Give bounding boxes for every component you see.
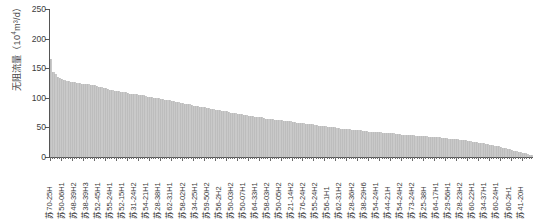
x-axis-tick-mark [265, 157, 266, 159]
x-axis-category-label: 苏50-05H2 [276, 183, 284, 219]
x-axis-category-label: 苏28-23H2 [457, 183, 465, 219]
y-axis-tick-label: 50 [36, 122, 46, 132]
x-axis-tick-mark [155, 157, 156, 159]
x-axis-category-label: 苏60-22H1 [469, 183, 477, 219]
x-axis-category-label: 苏50-06H1 [58, 183, 66, 219]
x-axis-tick-mark [276, 157, 277, 159]
x-axis-tick-mark [140, 157, 141, 159]
x-axis-tick-mark [254, 157, 255, 159]
x-axis-tick-mark [458, 157, 459, 159]
x-axis-category-label: 苏54-24H1 [372, 183, 380, 219]
x-axis-tick-mark [191, 157, 192, 159]
x-axis-tick-mark [261, 157, 262, 159]
x-axis-tick-mark [311, 157, 312, 159]
x-axis-tick-mark [318, 157, 319, 159]
x-axis-tick-mark [221, 157, 222, 159]
x-axis-category-label: 苏62-31H2 [336, 183, 344, 219]
x-axis-category-label: 苏52-15H1 [119, 183, 127, 219]
x-axis-tick-mark [70, 157, 71, 159]
x-axis-tick-mark [217, 157, 218, 159]
x-axis-tick-mark [504, 157, 505, 159]
x-axis-tick-mark [201, 157, 202, 159]
x-axis-tick-mark [120, 157, 121, 159]
x-axis-tick-mark [164, 157, 165, 159]
x-axis-tick-mark [447, 157, 448, 159]
x-axis-tick-mark [491, 157, 492, 159]
x-axis-tick-mark [465, 157, 466, 159]
x-axis-tick-mark [496, 157, 497, 159]
x-axis-category-label: 苏62-31H1 [167, 183, 175, 219]
x-axis-tick-mark [107, 157, 108, 159]
x-axis-tick-mark [65, 157, 66, 159]
x-axis-tick-mark [298, 157, 299, 159]
x-axis-category-label: 苏54-24H2 [396, 183, 404, 219]
x-axis-category-label: 苏55-24H1 [106, 183, 114, 219]
x-axis-tick-mark [432, 157, 433, 159]
x-axis-tick-mark [502, 157, 503, 159]
x-axis-tick-mark [153, 157, 154, 159]
x-axis-category-label: 苏28-38H1 [155, 183, 163, 219]
x-axis-tick-mark [371, 157, 372, 159]
y-axis-tick-label: 150 [32, 63, 46, 73]
x-axis-tick-mark [252, 157, 253, 159]
x-axis-tick-mark [362, 157, 363, 159]
y-axis-title-exponent: 4 [10, 31, 17, 35]
x-axis-tick-mark [349, 157, 350, 159]
x-axis-category-label: 苏59-50H2 [203, 183, 211, 219]
x-axis-tick-mark [419, 157, 420, 159]
x-axis-tick-mark [232, 157, 233, 159]
x-axis-tick-mark [76, 157, 77, 159]
x-axis-tick-mark [307, 157, 308, 159]
x-axis-category-label: 苏31-24H2 [131, 183, 139, 219]
x-axis-tick-mark [531, 157, 532, 159]
x-axis-category-label: 苏38-29H6 [360, 183, 368, 219]
x-axis-tick-mark [81, 157, 82, 159]
x-axis-tick-mark [272, 157, 273, 159]
x-axis-tick-mark [103, 157, 104, 159]
y-axis-title: 无阻流量（104m³/d） [9, 0, 23, 107]
x-axis-tick-mark [208, 157, 209, 159]
x-axis-tick-mark [239, 157, 240, 159]
x-axis-tick-mark [98, 157, 99, 159]
x-axis-tick-mark [461, 157, 462, 159]
x-axis-tick-mark [498, 157, 499, 159]
x-axis-category-label: 苏34-37H1 [481, 183, 489, 219]
x-axis-tick-mark [210, 157, 211, 159]
x-axis-tick-mark [316, 157, 317, 159]
x-axis-tick-mark [85, 157, 86, 159]
x-axis-category-label: 苏58-03H2 [263, 183, 271, 219]
x-axis-category-label: 苏56-1H1 [324, 187, 332, 219]
bar-series [50, 9, 533, 157]
x-axis-tick-mark [54, 157, 55, 159]
x-axis-tick-mark [199, 157, 200, 159]
x-axis-tick-mark [373, 157, 374, 159]
x-axis-tick-mark [63, 157, 64, 159]
x-axis-tick-mark [430, 157, 431, 159]
x-axis-category-label: 苏34-25H1 [191, 183, 199, 219]
x-axis-tick-mark [487, 157, 488, 159]
x-axis-tick-mark [322, 157, 323, 159]
x-axis-tick-mark [309, 157, 310, 159]
x-axis-tick-mark [125, 157, 126, 159]
x-axis-tick-mark [278, 157, 279, 159]
x-axis-tick-mark [333, 157, 334, 159]
x-axis-tick-mark [133, 157, 134, 159]
absolute-open-flow-bar-chart: 无阻流量（104m³/d） 050100150200250 苏70-25H苏50… [0, 0, 538, 219]
x-axis-tick-mark [375, 157, 376, 159]
x-axis-tick-mark [353, 157, 354, 159]
x-axis-tick-mark [118, 157, 119, 159]
x-axis-tick-mark [68, 157, 69, 159]
x-axis-tick-mark [92, 157, 93, 159]
x-axis-tick-mark [331, 157, 332, 159]
x-axis-tick-mark [414, 157, 415, 159]
x-axis-tick-mark [392, 157, 393, 159]
x-axis-tick-mark [289, 157, 290, 159]
x-axis-category-label: 苏54-21H1 [143, 183, 151, 219]
x-axis-category-label: 苏56-2H2 [215, 187, 223, 219]
x-axis-tick-mark [377, 157, 378, 159]
x-axis-tick-mark [177, 157, 178, 159]
x-axis-tick-mark [197, 157, 198, 159]
x-axis-tick-mark [476, 157, 477, 159]
x-axis-tick-mark [399, 157, 400, 159]
x-axis-tick-mark [166, 157, 167, 159]
